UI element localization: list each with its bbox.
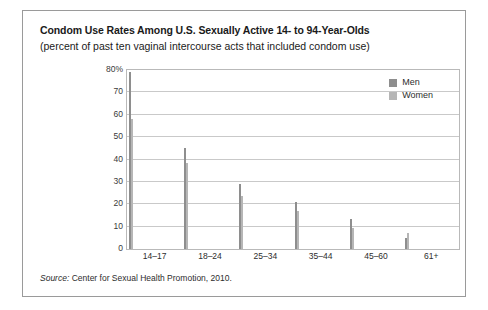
bar-group: 25–34 — [238, 70, 293, 249]
x-axis-tick-label: 35–44 — [293, 252, 348, 261]
y-axis-tick-label: 70 — [114, 87, 123, 96]
plot-wrapper: 01020304050607080% 14–1718–2425–3435–444… — [108, 69, 460, 264]
bar-group: 35–44 — [293, 70, 348, 249]
y-axis-tick-label: 50 — [114, 132, 123, 141]
title-block: Condom Use Rates Among U.S. Sexually Act… — [40, 23, 450, 53]
bar-women — [352, 228, 354, 249]
page-title: Condom Use Rates Among U.S. Sexually Act… — [40, 23, 450, 37]
x-axis-tick-label: 18–24 — [182, 252, 237, 261]
bar-women — [241, 196, 243, 249]
bar-women — [186, 163, 188, 249]
legend-label: Men — [402, 78, 420, 87]
legend-swatch-men — [389, 79, 397, 87]
bar-women — [297, 211, 299, 249]
x-axis-tick-label: 14–17 — [127, 252, 182, 261]
legend-label: Women — [402, 91, 433, 100]
legend-item: Men — [389, 78, 433, 87]
x-axis-tick-label: 25–34 — [238, 252, 293, 261]
bar-group: 18–24 — [182, 70, 237, 249]
chart-legend: MenWomen — [389, 78, 433, 104]
y-axis-tick-label: 40 — [114, 154, 123, 163]
legend-swatch-women — [389, 92, 397, 100]
source-label: Source: — [40, 273, 69, 283]
y-axis-tick-label: 60 — [114, 110, 123, 119]
legend-item: Women — [389, 91, 433, 100]
y-axis-tick-label: 20 — [114, 199, 123, 208]
bar-women — [131, 119, 133, 249]
y-axis-tick-label: 10 — [114, 221, 123, 230]
chart-subtitle: (percent of past ten vaginal intercourse… — [40, 39, 450, 53]
bar-group: 14–17 — [127, 70, 182, 249]
source-note: Source: Center for Sexual Health Promoti… — [40, 273, 232, 283]
plot-area: 01020304050607080% 14–1718–2425–3435–444… — [126, 69, 460, 250]
x-axis-tick-label: 61+ — [404, 252, 459, 261]
source-text: Center for Sexual Health Promotion, 2010… — [72, 273, 232, 283]
y-axis-tick-label: 80% — [106, 65, 123, 74]
x-axis-tick-label: 45–60 — [348, 252, 403, 261]
y-axis-tick-label: 0 — [118, 244, 123, 253]
y-axis-tick-label: 30 — [114, 177, 123, 186]
bar-women — [407, 233, 409, 249]
chart-figure-frame: Condom Use Rates Among U.S. Sexually Act… — [22, 10, 466, 297]
